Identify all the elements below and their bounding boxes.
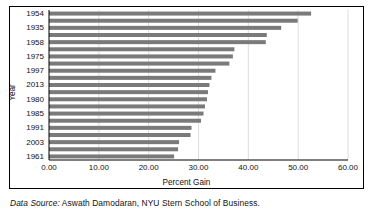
y-tick-label: 2013 — [18, 80, 44, 89]
y-tick-label: 1997 — [18, 66, 44, 75]
source-caption: Data Source: Aswath Damodaran, NYU Stern… — [10, 198, 260, 208]
y-tick-label: 1991 — [18, 123, 44, 132]
plot-frame — [9, 6, 364, 189]
x-tick-label: 30.00 — [179, 163, 219, 172]
source-label: Data Source: — [10, 198, 60, 208]
y-tick-label: 1975 — [18, 52, 44, 61]
source-text: Aswath Damodaran, NYU Stern School of Bu… — [60, 198, 260, 208]
figure-container: 0.0010.0020.0030.0040.0050.0060.00 19541… — [0, 0, 373, 219]
y-tick-label: 1985 — [18, 109, 44, 118]
y-tick-label: 1980 — [18, 95, 44, 104]
x-axis-title: Percent Gain — [0, 178, 373, 187]
x-tick-label: 40.00 — [228, 163, 268, 172]
y-tick-label: 1961 — [18, 152, 44, 161]
x-tick-label: 60.00 — [328, 163, 368, 172]
y-axis-title: Year — [8, 73, 17, 113]
x-tick-label: 0.00 — [29, 163, 69, 172]
y-tick-label: 2003 — [18, 138, 44, 147]
x-tick-label: 20.00 — [129, 163, 169, 172]
x-tick-label: 50.00 — [278, 163, 318, 172]
y-tick-label: 1954 — [18, 9, 44, 18]
y-tick-label: 1958 — [18, 38, 44, 47]
x-tick-label: 10.00 — [79, 163, 119, 172]
y-tick-label: 1935 — [18, 23, 44, 32]
